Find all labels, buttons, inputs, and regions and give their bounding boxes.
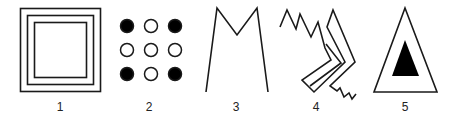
figure-5-nested-triangles: 5 [374,8,437,114]
hollow-circle [169,44,182,57]
figure-panel: 1 2 3 4 5 [0,0,459,120]
hollow-circle [145,44,158,57]
middle-square [28,16,94,85]
figure-2-circle-grid [121,20,182,81]
figure-3-m-shape: 3 [206,8,268,114]
figure-3-label: 3 [233,100,240,114]
hollow-circle [121,44,134,57]
inner-square [35,23,87,78]
filled-circle [121,20,134,33]
figure-4-zigzag-chevron: 4 [280,10,356,114]
hollow-circle [145,20,158,33]
filled-circle [121,68,134,81]
inner-filled-triangle [392,40,419,76]
hollow-circle [145,68,158,81]
figure-1-nested-squares: 1 [21,9,101,115]
figure-2-label: 2 [146,100,153,114]
figure-1-label: 1 [57,100,64,114]
figure-5-label: 5 [402,100,409,114]
zigzag-band-outline [280,10,356,99]
m-polyline [206,8,268,92]
filled-circle [169,68,182,81]
outer-square [21,9,101,92]
filled-circle [169,20,182,33]
figure-4-label: 4 [313,100,320,114]
